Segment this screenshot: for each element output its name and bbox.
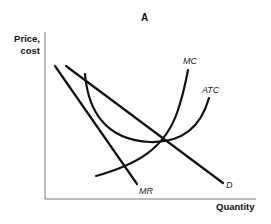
mr-label: MR [139, 186, 153, 196]
diagram-canvas [0, 0, 271, 224]
atc-curve [85, 74, 209, 142]
mc-label: MC [183, 56, 197, 66]
demand-curve [66, 66, 223, 183]
d-label: D [226, 180, 233, 190]
atc-label: ATC [202, 85, 219, 95]
